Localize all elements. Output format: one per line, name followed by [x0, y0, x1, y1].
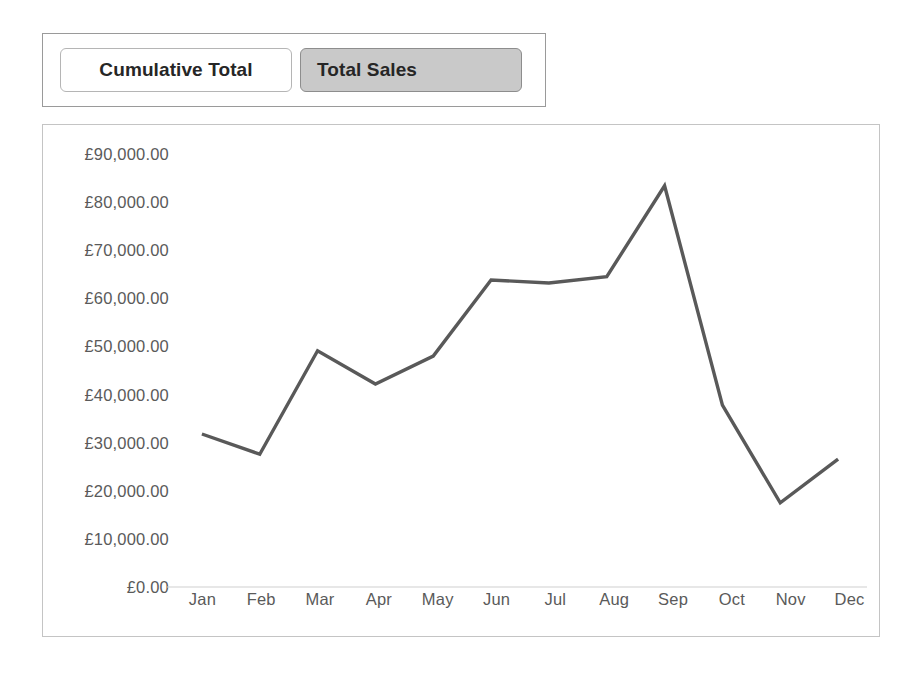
- cumulative-total-button[interactable]: Cumulative Total: [60, 48, 292, 92]
- x-axis-tick: May: [408, 590, 467, 624]
- x-axis-tick: Jan: [173, 590, 232, 624]
- x-axis-tick: Oct: [702, 590, 761, 624]
- total-sales-button-label: Total Sales: [317, 59, 417, 81]
- x-axis-tick: Sep: [644, 590, 703, 624]
- x-axis-tick: Nov: [761, 590, 820, 624]
- x-axis-tick: Aug: [585, 590, 644, 624]
- x-axis-tick: Apr: [349, 590, 408, 624]
- sales-chart-panel: £0.00£10,000.00£20,000.00£30,000.00£40,0…: [42, 124, 880, 637]
- plot-area: £0.00£10,000.00£20,000.00£30,000.00£40,0…: [43, 125, 879, 636]
- line-chart-svg: [43, 125, 879, 636]
- view-toggle-group: Cumulative Total Total Sales: [60, 48, 522, 92]
- view-toggle-panel: Cumulative Total Total Sales: [42, 33, 546, 107]
- x-axis-tick-labels: JanFebMarAprMayJunJulAugSepOctNovDec: [173, 590, 879, 624]
- total-sales-line[interactable]: [202, 186, 838, 503]
- x-axis-tick: Dec: [820, 590, 879, 624]
- x-axis-tick: Jul: [526, 590, 585, 624]
- total-sales-button[interactable]: Total Sales: [300, 48, 522, 92]
- cumulative-total-button-label: Cumulative Total: [99, 59, 252, 81]
- x-axis-tick: Mar: [291, 590, 350, 624]
- series-total-sales: [202, 186, 838, 503]
- x-axis-tick: Jun: [467, 590, 526, 624]
- x-axis-tick: Feb: [232, 590, 291, 624]
